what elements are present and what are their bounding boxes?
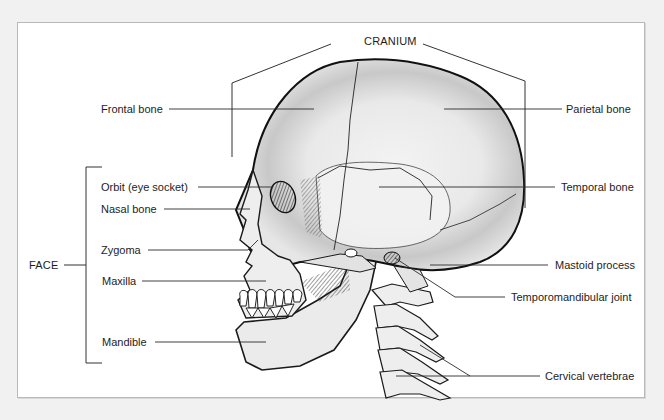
cervical-vertebrae-shape <box>372 284 450 400</box>
temporomandibular-joint-label: Temporomandibular joint <box>511 291 631 303</box>
temporal-bone-label: Temporal bone <box>561 181 634 193</box>
frontal-bone-label: Frontal bone <box>101 103 163 115</box>
zygoma-label: Zygoma <box>101 244 141 256</box>
cranium-label: CRANIUM <box>364 35 417 47</box>
skull-illustration <box>0 0 664 420</box>
maxilla-label: Maxilla <box>102 275 136 287</box>
nasal-bone-label: Nasal bone <box>101 203 157 215</box>
mastoid-process-label: Mastoid process <box>555 259 635 271</box>
parietal-bone-label: Parietal bone <box>566 103 631 115</box>
orbit-label: Orbit (eye socket) <box>101 181 188 193</box>
face-bracket <box>64 167 102 363</box>
mandible-label: Mandible <box>102 336 147 348</box>
cervical-vertebrae-label: Cervical vertebrae <box>545 370 634 382</box>
face-label: FACE <box>29 259 59 271</box>
mastoid-shape <box>384 252 400 264</box>
